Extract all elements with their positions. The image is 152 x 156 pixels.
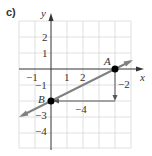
rise-label: −2 [118, 79, 130, 90]
run-label: −4 [75, 104, 87, 115]
point-a-label: A [104, 56, 111, 67]
x-axis-label: x [140, 72, 145, 83]
point-b [48, 98, 55, 105]
y-tick-neg1: −1 [35, 80, 47, 91]
y-tick-neg3: −3 [35, 110, 47, 121]
line-arrow-upper-icon [124, 60, 134, 67]
point-a [112, 66, 119, 73]
part-label: c) [6, 7, 16, 18]
line-arrow-lower-icon [19, 111, 29, 118]
x-tick-2: 2 [80, 72, 86, 83]
point-b-label: B [38, 94, 45, 105]
y-tick-2: 2 [42, 32, 48, 43]
y-axis-arrow-icon [49, 13, 54, 21]
arrow-down-icon [113, 95, 118, 101]
y-axis-label: y [41, 8, 46, 19]
x-tick-1: 1 [64, 72, 70, 83]
y-tick-neg4: −4 [35, 126, 47, 137]
y-tick-1: 1 [42, 48, 48, 59]
